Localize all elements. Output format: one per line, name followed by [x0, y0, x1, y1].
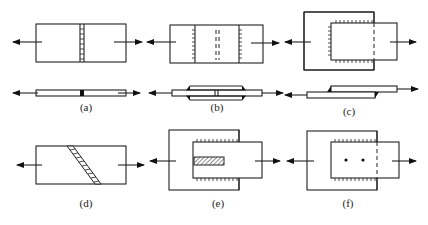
panel-c: (c)	[285, 12, 418, 118]
spot-weld-icon	[361, 158, 364, 161]
panel-a-side-view	[13, 90, 140, 96]
panel-a-label: (a)	[80, 101, 93, 114]
panel-e: (e)	[150, 130, 280, 210]
panel-c-label: (c)	[343, 105, 356, 118]
panel-b-top-view	[147, 25, 279, 63]
weld-hatch-icon	[70, 149, 99, 182]
panel-a: (a)	[13, 24, 142, 114]
panel-b-side-view	[149, 86, 283, 100]
weld-hatch-icon	[80, 29, 84, 59]
joint-diagram: (a)	[0, 0, 428, 225]
panel-f: (f)	[287, 131, 416, 210]
panel-e-label: (e)	[212, 197, 225, 210]
panel-b-label: (b)	[211, 101, 224, 114]
panel-a-top-view	[13, 24, 142, 62]
panel-c-top-view	[285, 12, 416, 70]
panel-b: (b)	[147, 25, 283, 114]
panel-d: (d)	[17, 146, 144, 210]
weld-hatch-icon	[67, 146, 101, 184]
panel-c-side-view	[285, 86, 418, 98]
spot-weld-icon	[344, 158, 347, 161]
panel-f-label: (f)	[343, 197, 354, 210]
weld-hatch-icon	[192, 30, 242, 58]
slot-weld-hatch	[194, 157, 224, 165]
panel-d-label: (d)	[80, 197, 93, 210]
